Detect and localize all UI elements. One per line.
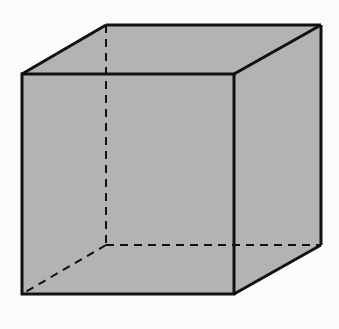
cube-fill xyxy=(22,25,321,294)
cube-diagram xyxy=(0,0,339,329)
cube-drawing xyxy=(0,0,339,329)
